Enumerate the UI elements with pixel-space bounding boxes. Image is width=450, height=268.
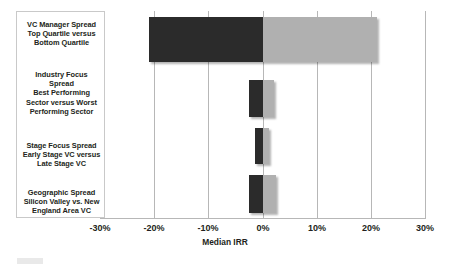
- category-label-line: Bottom Quartile: [17, 38, 106, 47]
- bar-segment-negative: [249, 175, 263, 213]
- x-tick-label-neg20: -20%: [132, 223, 176, 233]
- bar-industry-focus-spread: [249, 80, 274, 117]
- category-label-line: Early Stage VC versus: [17, 150, 106, 159]
- category-label-stage-focus-spread: Stage Focus Spread Early Stage VC versus…: [17, 141, 106, 169]
- bar-stage-focus-spread: [255, 128, 269, 164]
- x-tick-label-pos30: 30%: [403, 223, 447, 233]
- category-label-geographic-spread: Geographic Spread Silicon Valley vs. New…: [17, 188, 106, 216]
- category-label-vc-manager-spread: VC Manager Spread Top Quartile versus Bo…: [17, 20, 106, 48]
- x-tick-label-pos10: 10%: [295, 223, 339, 233]
- x-tick-label-neg30: -30%: [78, 223, 122, 233]
- x-axis-title: Median IRR: [0, 237, 450, 247]
- category-label-line: Spread: [17, 79, 106, 88]
- x-tick-label-pos20: 20%: [349, 223, 393, 233]
- bar-segment-positive: [263, 17, 377, 62]
- bar-segment-positive: [263, 175, 276, 213]
- scan-artifact: [17, 258, 43, 264]
- gridline-pos30: [425, 11, 426, 218]
- category-label-line: Sector versus Worst: [17, 98, 106, 107]
- category-label-line: Geographic Spread: [17, 188, 106, 197]
- category-label-industry-focus-spread: Industry Focus Spread Best Performing Se…: [17, 70, 106, 116]
- category-label-line: England Area VC: [17, 206, 106, 215]
- bar-segment-negative: [149, 17, 263, 62]
- bar-segment-negative: [255, 128, 263, 164]
- category-label-line: Stage Focus Spread: [17, 141, 106, 150]
- category-label-line: Late Stage VC: [17, 159, 106, 168]
- bar-geographic-spread: [249, 175, 276, 213]
- bar-vc-manager-spread: [149, 17, 377, 62]
- category-label-line: Industry Focus: [17, 70, 106, 79]
- chart-figure: VC Manager Spread Top Quartile versus Bo…: [0, 0, 450, 268]
- category-label-line: Performing Sector: [17, 107, 106, 116]
- category-label-line: VC Manager Spread: [17, 20, 106, 29]
- x-tick-label-neg10: -10%: [186, 223, 230, 233]
- category-label-line: Best Performing: [17, 88, 106, 97]
- bar-segment-positive: [263, 80, 274, 117]
- plot-area: [100, 11, 425, 218]
- x-tick-label-zero: 0%: [241, 223, 285, 233]
- category-label-line: Top Quartile versus: [17, 29, 106, 38]
- bar-segment-positive: [263, 128, 269, 164]
- x-axis-line: [100, 218, 426, 219]
- category-label-box: VC Manager Spread Top Quartile versus Bo…: [16, 11, 105, 218]
- category-label-line: Silicon Valley vs. New: [17, 197, 106, 206]
- bar-segment-negative: [249, 80, 263, 117]
